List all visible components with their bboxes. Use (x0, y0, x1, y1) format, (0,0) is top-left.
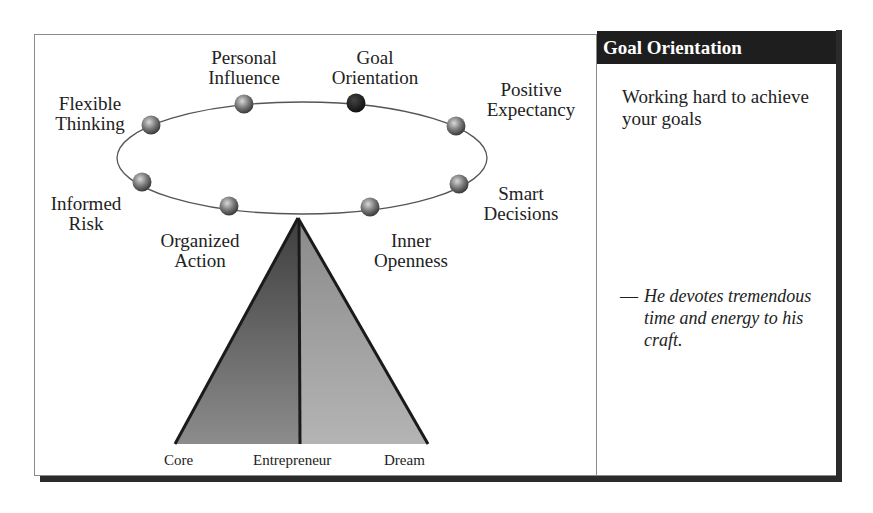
panel-quote: — He devotes tremendous time and energy … (620, 285, 820, 351)
label-line: Expectancy (466, 100, 596, 120)
base-label-dream: Dream (384, 452, 425, 469)
label-positive-expectancy: Positive Expectancy (466, 80, 596, 120)
sphere-personal-influence[interactable] (235, 95, 254, 114)
base-label-entrepreneur: Entrepreneur (253, 452, 331, 469)
label-informed-risk: Informed Risk (36, 194, 136, 234)
label-goal-orientation: Goal Orientation (300, 48, 450, 88)
pyramid-divider (299, 220, 300, 444)
label-smart-decisions: Smart Decisions (466, 184, 576, 224)
label-line: Openness (356, 251, 466, 271)
panel-title: Goal Orientation (597, 31, 836, 64)
label-flexible-thinking: Flexible Thinking (40, 94, 140, 134)
label-line: Risk (36, 214, 136, 234)
label-line: Positive (466, 80, 596, 100)
trait-orbit (117, 102, 487, 214)
label-line: Flexible (40, 94, 140, 114)
label-line: Smart (466, 184, 576, 204)
label-line: Decisions (466, 204, 576, 224)
sphere-inner-openness[interactable] (361, 198, 380, 217)
label-line: Action (145, 251, 255, 271)
sphere-organized-action[interactable] (220, 197, 239, 216)
label-line: Inner (356, 231, 466, 251)
label-line: Thinking (40, 114, 140, 134)
sphere-flexible-thinking[interactable] (142, 116, 161, 135)
panel-description: Working hard to achieve your goals (622, 86, 822, 130)
base-label-core: Core (164, 452, 193, 469)
sphere-positive-expectancy[interactable] (447, 117, 466, 136)
label-organized-action: Organized Action (145, 231, 255, 271)
quote-text: He devotes tremendous time and energy to… (620, 285, 820, 351)
label-inner-openness: Inner Openness (356, 231, 466, 271)
label-line: Informed (36, 194, 136, 214)
label-line: Goal (300, 48, 450, 68)
label-line: Organized (145, 231, 255, 251)
quote-dash: — (620, 285, 638, 307)
sphere-informed-risk[interactable] (133, 173, 152, 192)
sphere-goal-orientation[interactable] (347, 94, 366, 113)
label-line: Orientation (300, 68, 450, 88)
